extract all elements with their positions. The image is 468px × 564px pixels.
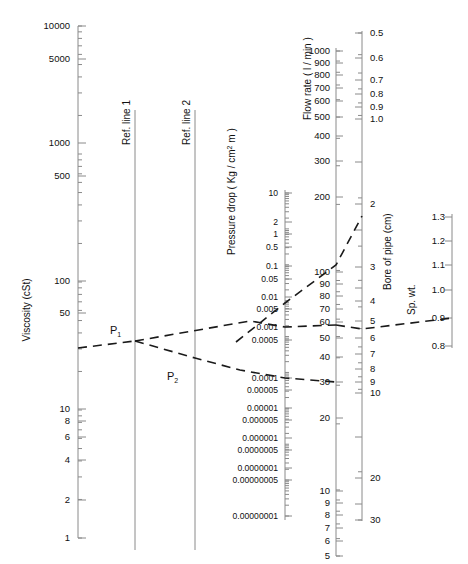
viscosity-tick-label: 10000 bbox=[44, 20, 70, 31]
flow-rate-tick-label: 80 bbox=[319, 290, 330, 301]
pressure-drop-axis: 10210.50.10.050.010.0050.0010.00050.0001… bbox=[226, 128, 293, 521]
bore-of-pipe-axis-title: Bore of pipe (cm) bbox=[382, 213, 393, 290]
pressure-drop-tick-label: 0.0000001 bbox=[237, 463, 278, 473]
viscosity-tick-label: 100 bbox=[54, 275, 70, 286]
nomo-segment-p1-to-p2-to-flow bbox=[135, 341, 336, 382]
p1-subscript: 1 bbox=[117, 331, 121, 338]
viscosity-tick-label: 1000 bbox=[49, 137, 70, 148]
pressure-drop-tick-group bbox=[285, 193, 292, 516]
nomo-segment-pressure-to-bore bbox=[236, 216, 362, 342]
flow-rate-tick-label: 50 bbox=[319, 332, 330, 343]
specific-weight-axis-title: Sp. wt. bbox=[406, 284, 417, 315]
pressure-drop-tick-label: 0.0001 bbox=[252, 373, 279, 383]
point-label-p2: P2 bbox=[167, 370, 178, 384]
flow-rate-tick-label: 700 bbox=[314, 82, 330, 93]
flow-rate-tick-label: 6 bbox=[325, 535, 330, 546]
bore-of-pipe-tick-label: 0.8 bbox=[370, 88, 383, 99]
flow-rate-tick-label: 90 bbox=[319, 278, 330, 289]
pressure-drop-tick-label: 0.05 bbox=[261, 274, 278, 284]
pressure-drop-tick-label: 0.00005 bbox=[247, 385, 278, 395]
flow-rate-tick-label: 20 bbox=[319, 412, 330, 423]
ref-line-2-label: Ref. line 2 bbox=[181, 100, 192, 145]
pressure-drop-tick-label: 0.1 bbox=[266, 261, 278, 271]
bore-of-pipe-tick-label: 2 bbox=[370, 198, 375, 209]
specific-weight-tick-label: 1.1 bbox=[432, 259, 445, 270]
viscosity-tick-label: 10 bbox=[59, 403, 70, 414]
viscosity-axis-title: Viscosity (cSt) bbox=[21, 278, 32, 341]
bore-of-pipe-tick-label: 30 bbox=[370, 514, 381, 525]
pressure-drop-tick-label: 0.000001 bbox=[242, 433, 278, 443]
reference-line-1: Ref. line 1 bbox=[121, 100, 135, 550]
specific-weight-tick-label: 0.9 bbox=[432, 312, 445, 323]
flow-rate-tick-label: 500 bbox=[314, 111, 330, 122]
flow-rate-tick-label: 9 bbox=[325, 497, 330, 508]
pressure-drop-tick-labels: 10210.50.10.050.010.0050.0010.00050.0001… bbox=[233, 188, 279, 521]
nomo-segment-p1-to-flow bbox=[135, 321, 336, 341]
specific-weight-tick-label: 0.8 bbox=[432, 340, 445, 351]
bore-of-pipe-tick-label: 4 bbox=[370, 295, 375, 306]
pressure-drop-tick-label: 0.001 bbox=[256, 322, 278, 332]
bore-of-pipe-axis: 0.50.60.70.80.91.023456789102030 Bore of… bbox=[355, 27, 393, 525]
bore-of-pipe-tick-label: 3 bbox=[370, 261, 375, 272]
bore-of-pipe-tick-label: 20 bbox=[370, 472, 381, 483]
bore-of-pipe-tick-label: 8 bbox=[370, 363, 375, 374]
specific-weight-tick-label: 1.3 bbox=[432, 211, 445, 222]
viscosity-tick-label: 1 bbox=[65, 532, 70, 543]
pressure-drop-tick-label: 0.0005 bbox=[252, 335, 279, 345]
flow-rate-tick-group bbox=[336, 51, 343, 556]
bore-of-pipe-tick-label: 0.6 bbox=[370, 52, 383, 63]
viscosity-tick-group bbox=[78, 26, 86, 538]
pressure-drop-tick-label: 2 bbox=[273, 217, 278, 227]
specific-weight-tick-group bbox=[445, 217, 452, 346]
flow-rate-tick-label: 400 bbox=[314, 130, 330, 141]
specific-weight-tick-labels: 1.31.21.11.00.90.8 bbox=[432, 211, 445, 351]
pressure-title-tail: m ) bbox=[226, 128, 237, 145]
flow-rate-tick-label: 40 bbox=[319, 351, 330, 362]
specific-weight-tick-label: 1.2 bbox=[432, 235, 445, 246]
viscosity-axis: 1000050001000500100501086421 Viscosity (… bbox=[21, 20, 86, 543]
viscosity-tick-label: 6 bbox=[65, 431, 70, 442]
specific-weight-axis: 1.31.21.11.00.90.8 Sp. wt. bbox=[406, 211, 452, 351]
specific-weight-tick-label: 1.0 bbox=[432, 284, 445, 295]
pressure-drop-tick-label: 10 bbox=[268, 188, 278, 198]
ref-line-1-label: Ref. line 1 bbox=[121, 100, 132, 145]
flow-rate-tick-label: 300 bbox=[314, 155, 330, 166]
pressure-drop-tick-label: 0.000005 bbox=[242, 415, 278, 425]
flow-rate-tick-label: 5 bbox=[325, 550, 330, 561]
pressure-drop-tick-label: 0.0000005 bbox=[237, 445, 278, 455]
p2-subscript: 2 bbox=[174, 377, 178, 384]
nomogram-svg: 1000050001000500100501086421 Viscosity (… bbox=[0, 0, 468, 564]
viscosity-tick-label: 5000 bbox=[49, 53, 70, 64]
pressure-drop-tick-label: 0.01 bbox=[261, 292, 278, 302]
flow-rate-tick-label: 7 bbox=[325, 522, 330, 533]
bore-of-pipe-tick-label: 0.7 bbox=[370, 74, 383, 85]
flow-rate-axis: 1000900800700600500400300200100908070605… bbox=[302, 37, 343, 561]
construction-point-labels: P1 P2 bbox=[110, 324, 178, 384]
bore-of-pipe-tick-label: 7 bbox=[370, 348, 375, 359]
flow-rate-tick-label: 900 bbox=[314, 57, 330, 68]
viscosity-tick-label: 2 bbox=[65, 494, 70, 505]
flow-rate-tick-labels: 1000900800700600500400300200100908070605… bbox=[309, 45, 330, 561]
viscosity-tick-label: 4 bbox=[65, 454, 70, 465]
flow-rate-tick-label: 800 bbox=[314, 69, 330, 80]
pressure-drop-tick-label: 0.005 bbox=[256, 304, 278, 314]
flow-rate-tick-label: 600 bbox=[314, 95, 330, 106]
bore-of-pipe-tick-label: 10 bbox=[370, 387, 381, 398]
pressure-drop-tick-label: 0.00000005 bbox=[233, 475, 279, 485]
bore-of-pipe-tick-label: 0.9 bbox=[370, 101, 383, 112]
flow-rate-tick-label: 200 bbox=[314, 191, 330, 202]
viscosity-tick-label: 50 bbox=[59, 307, 70, 318]
viscosity-tick-label: 500 bbox=[54, 170, 70, 181]
p2-base: P bbox=[167, 370, 174, 382]
point-label-p1: P1 bbox=[110, 324, 121, 338]
viscosity-tick-labels: 1000050001000500100501086421 bbox=[44, 20, 70, 543]
flow-rate-tick-label: 10 bbox=[319, 485, 330, 496]
bore-of-pipe-tick-label: 9 bbox=[370, 376, 375, 387]
pressure-drop-tick-label: 0.00001 bbox=[247, 403, 278, 413]
flow-rate-axis-title: Flow rate ( l / min ) bbox=[302, 37, 313, 120]
p1-base: P bbox=[110, 324, 117, 336]
bore-of-pipe-tick-label: 5 bbox=[370, 315, 375, 326]
reference-line-2: Ref. line 2 bbox=[181, 100, 195, 550]
bore-of-pipe-tick-label: 0.5 bbox=[370, 27, 383, 38]
pressure-drop-axis-title: Pressure drop ( Kg / cm2 m ) bbox=[226, 128, 238, 255]
